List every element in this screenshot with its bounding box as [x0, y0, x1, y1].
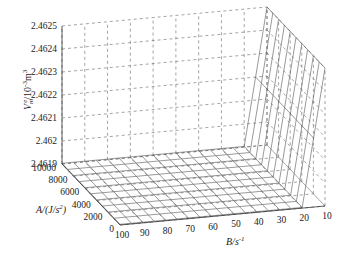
b-tick-label: 20: [299, 213, 309, 223]
b-tick-label: 80: [163, 226, 173, 236]
grid-line: [62, 99, 267, 118]
grid-line: [267, 122, 325, 183]
z-tick-label: 2.4624: [31, 44, 57, 54]
mesh-line: [130, 157, 188, 218]
mesh-line: [68, 13, 273, 169]
z-tick-label: 2.4621: [31, 113, 57, 123]
b-tick-label: 70: [186, 224, 196, 234]
grid-line: [62, 76, 267, 95]
b-tick-label: 10: [322, 211, 332, 221]
z-tick-label: 2.4622: [31, 90, 57, 100]
b-tick-label: 30: [277, 215, 287, 225]
mesh-line: [153, 155, 211, 216]
mesh-line: [233, 147, 291, 208]
a-tick-label: 10000: [32, 163, 56, 173]
a-tick-label: 0: [109, 224, 114, 234]
mesh-line: [108, 159, 166, 220]
b-axis-title: B/s-1: [226, 235, 245, 247]
a-tick-label: 4000: [72, 200, 91, 210]
z-tick-label: 2.462: [36, 136, 58, 146]
b-tick-label: 50: [231, 219, 241, 229]
a-tick-label: 6000: [60, 187, 79, 197]
grid-line: [62, 122, 267, 141]
grid-line: [267, 53, 325, 114]
a-tick-label: 8000: [49, 175, 68, 185]
z-tick-label: 2.4623: [31, 67, 57, 77]
axes: [62, 26, 325, 225]
mesh-line: [142, 156, 200, 217]
b-tick-label: 100: [115, 230, 130, 240]
mesh-line: [62, 7, 267, 163]
grid-line: [62, 7, 267, 26]
a-axis-title: A/(J/s2): [35, 203, 67, 216]
plot-area: 2.46252.46242.46232.46222.46212.4622.461…: [0, 0, 350, 254]
grid-line: [267, 99, 325, 160]
grid-line: [62, 30, 267, 49]
a-tick-label: 2000: [83, 212, 102, 222]
mesh-line: [119, 158, 177, 219]
b-tick-label: 60: [208, 222, 218, 232]
z-axis-title: Vme/10-3m3: [21, 69, 35, 110]
z-tick-label: 2.4625: [31, 21, 57, 31]
surface-chart: 2.46252.46242.46232.46222.46212.4622.461…: [0, 0, 350, 254]
b-tick-label: 40: [254, 217, 264, 227]
b-tick-label: 90: [140, 228, 150, 238]
grid-line: [267, 76, 325, 137]
mesh-line: [79, 25, 284, 181]
grid-lines: [62, 7, 325, 225]
grid-line: [62, 53, 267, 72]
